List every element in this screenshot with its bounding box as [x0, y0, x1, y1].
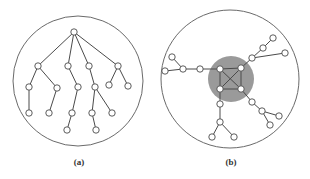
node: [26, 110, 32, 116]
node: [75, 84, 81, 90]
node: [270, 35, 276, 41]
edge: [74, 32, 89, 66]
node: [64, 127, 70, 133]
node: [217, 66, 223, 72]
node: [35, 63, 41, 69]
edge: [95, 87, 112, 113]
node: [115, 63, 121, 69]
node: [93, 127, 99, 133]
node: [69, 110, 75, 116]
node: [259, 108, 265, 114]
node: [125, 83, 131, 89]
node: [238, 65, 244, 71]
edge: [72, 87, 78, 113]
node: [169, 54, 175, 60]
node: [217, 86, 223, 92]
node: [180, 66, 186, 72]
node: [209, 134, 215, 140]
edge: [74, 32, 118, 66]
panel-b-label: (b): [226, 157, 237, 167]
node: [54, 85, 60, 91]
node: [26, 84, 32, 90]
node: [106, 82, 112, 88]
node: [86, 63, 92, 69]
node: [46, 110, 52, 116]
node: [249, 99, 255, 105]
panel-a: [13, 16, 143, 146]
diagram-canvas: [0, 0, 310, 179]
edge: [92, 87, 95, 113]
node: [92, 84, 98, 90]
node: [282, 50, 288, 56]
edge: [38, 66, 57, 88]
panel-a-label: (a): [74, 157, 85, 167]
node: [267, 122, 273, 128]
node: [217, 101, 223, 107]
node: [109, 110, 115, 116]
node: [197, 66, 203, 72]
node: [162, 68, 168, 74]
node: [260, 45, 266, 51]
edge: [49, 88, 57, 113]
node: [249, 55, 255, 61]
node: [71, 29, 77, 35]
node: [65, 63, 71, 69]
node: [89, 110, 95, 116]
node: [217, 119, 223, 125]
node: [238, 86, 244, 92]
node: [231, 134, 237, 140]
panel-b: [161, 10, 299, 148]
node: [276, 113, 282, 119]
